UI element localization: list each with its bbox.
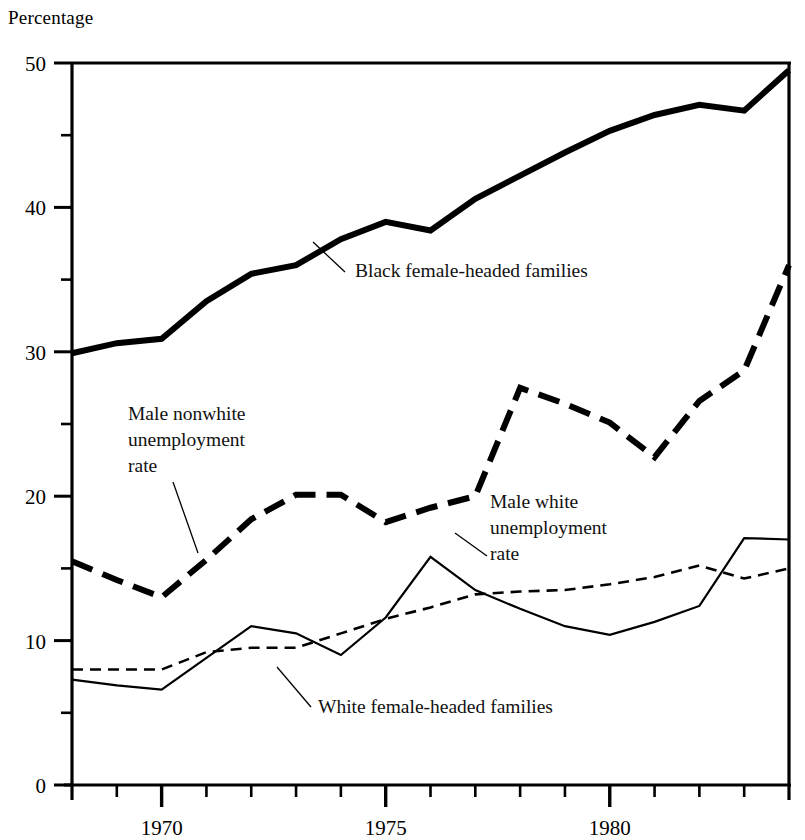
annotation-line: rate <box>128 455 157 476</box>
series-line-black-female-headed-families <box>72 70 789 353</box>
annotation-leader-white-female-headed-families <box>277 667 311 707</box>
series-line-male-white-unemployment-rate <box>72 538 789 690</box>
annotation-line: White female-headed families <box>318 696 553 717</box>
annotation-line: unemployment <box>490 517 608 538</box>
annotation-label-male-nonwhite-unemployment-rate: Male nonwhiteunemploymentrate <box>128 403 246 476</box>
y-tick-label: 50 <box>25 52 46 76</box>
x-axis-tick-labels: 197019751980 <box>141 816 631 840</box>
annotation-leader-male-nonwhite-unemployment-rate <box>173 482 198 553</box>
annotation-label-black-female-headed-families: Black female-headed families <box>355 260 588 281</box>
y-axis-tick-labels: 01020304050 <box>25 52 46 798</box>
annotation-line: rate <box>490 543 519 564</box>
x-tick-label: 1975 <box>365 816 407 840</box>
line-chart-plot: 01020304050 197019751980 Black female-he… <box>0 0 805 840</box>
annotation-group: Black female-headed familiesMale nonwhit… <box>128 242 608 717</box>
annotation-label-male-white-unemployment-rate: Male whiteunemploymentrate <box>490 491 608 564</box>
annotation-line: Male nonwhite <box>128 403 246 424</box>
y-tick-label: 30 <box>25 341 46 365</box>
x-axis-ticks <box>117 785 744 807</box>
data-series-group <box>72 70 789 689</box>
y-tick-label: 20 <box>25 485 46 509</box>
y-tick-label: 40 <box>25 196 46 220</box>
chart-figure: Percentage 01020304050 197019751980 Blac… <box>0 0 805 840</box>
x-tick-label: 1980 <box>589 816 631 840</box>
y-tick-label: 0 <box>36 774 47 798</box>
annotation-line: Male white <box>490 491 578 512</box>
y-axis-ticks <box>54 63 72 785</box>
annotation-line: Black female-headed families <box>355 260 588 281</box>
annotation-leader-male-white-unemployment-rate <box>455 533 487 556</box>
annotation-line: unemployment <box>128 429 246 450</box>
x-tick-label: 1970 <box>141 816 183 840</box>
annotation-label-white-female-headed-families: White female-headed families <box>318 696 553 717</box>
y-tick-label: 10 <box>25 630 46 654</box>
